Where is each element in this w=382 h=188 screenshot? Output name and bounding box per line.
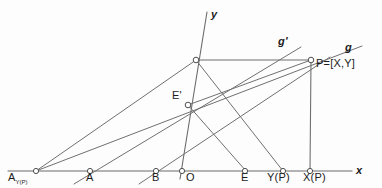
point-label-b: B [152,172,160,183]
node-a0 [33,168,38,173]
node-o [179,168,184,173]
geometry-figure: AY(P) A B O E Y(P) X(P) E' P=[X,Y] y x g… [0,0,382,188]
segment-eprime-e [188,105,246,171]
point-label-p: P=[X,Y] [316,58,355,69]
axis-label-y: y [211,9,217,20]
point-label-e-prime: E' [172,90,182,101]
point-label-a0: AY(P) [8,172,28,185]
line-label-g: g [345,42,352,53]
point-label-a: A [86,172,94,183]
point-label-yp: Y(P) [267,172,290,183]
segment-p-xp [310,60,311,171]
segment-ytop-yp [196,60,283,171]
point-label-o: O [186,172,195,183]
point-label-xp: X(P) [303,172,326,183]
node-ytop [193,57,199,63]
figure-canvas [0,0,382,188]
node-p [308,57,314,63]
axis-label-x: x [356,165,362,176]
node-e-prime [185,102,191,108]
segment-a0-ytop [36,60,196,171]
line-g-prime [74,47,301,184]
line-label-g-prime: g' [278,36,288,47]
point-label-e: E [241,172,249,183]
